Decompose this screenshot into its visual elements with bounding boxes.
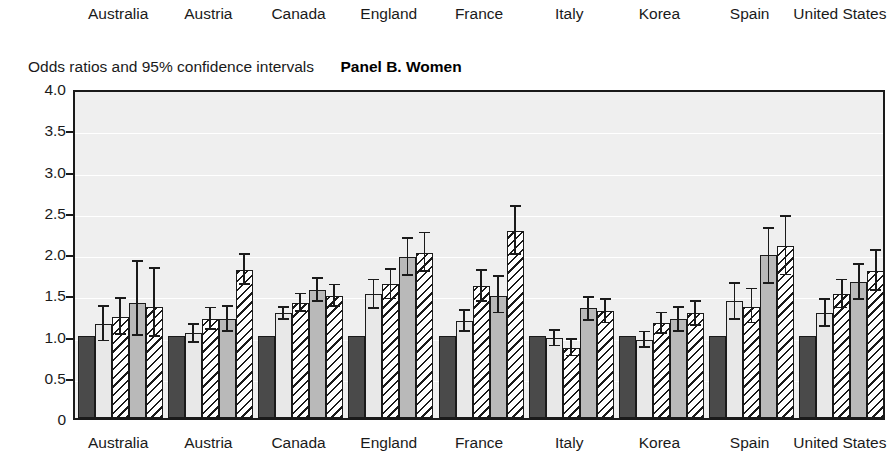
error-bar-cap-upper xyxy=(583,296,594,298)
error-bar-cap-lower xyxy=(402,274,413,276)
error-bar-cap-lower xyxy=(115,333,126,335)
error-bar-cap-upper xyxy=(459,309,470,311)
bar xyxy=(580,308,597,418)
error-bar xyxy=(514,206,516,254)
country-label-korea: Korea xyxy=(639,432,680,454)
country-label-austria: Austria xyxy=(184,432,232,454)
error-bar-cap-lower xyxy=(673,330,684,332)
bar-slot xyxy=(850,92,867,418)
bar-slot xyxy=(473,92,490,418)
bar-slot xyxy=(833,92,850,418)
country-header-label-united-states: United States xyxy=(793,4,886,24)
error-bar-cap-lower xyxy=(836,307,847,309)
error-bar-cap-lower xyxy=(763,282,774,284)
country-label-canada: Canada xyxy=(271,432,325,454)
error-bar-cap-lower xyxy=(600,322,611,324)
error-bar-cap-upper xyxy=(132,260,143,262)
error-bar-cap-lower xyxy=(312,300,323,302)
bar xyxy=(399,257,416,418)
bar-slot xyxy=(365,92,382,418)
bar-group-england xyxy=(348,92,433,418)
error-bar xyxy=(768,228,770,282)
bar xyxy=(636,340,653,418)
bar xyxy=(456,321,473,418)
bar-slot xyxy=(687,92,704,418)
bottom-country-labels: AustraliaAustriaCanadaEnglandFranceItaly… xyxy=(73,432,893,460)
error-bar-cap-lower xyxy=(780,274,791,276)
error-bar-cap-lower xyxy=(132,334,143,336)
error-bar-cap-lower xyxy=(278,318,289,320)
error-bar xyxy=(136,261,138,334)
bar-group-spain xyxy=(709,92,794,418)
bar-slot xyxy=(580,92,597,418)
error-bar-cap-lower xyxy=(295,310,306,312)
error-bar-cap-upper xyxy=(493,275,504,277)
error-bar-cap-lower xyxy=(656,332,667,334)
bar xyxy=(709,336,726,419)
bar-slot xyxy=(292,92,309,418)
bar xyxy=(799,336,816,419)
bar-slot xyxy=(653,92,670,418)
error-bar xyxy=(333,284,335,305)
error-bar-cap-upper xyxy=(639,331,650,333)
error-bar-cap-lower xyxy=(239,283,250,285)
bar xyxy=(563,348,580,418)
bar-group-canada xyxy=(258,92,343,418)
error-bar-cap-lower xyxy=(222,330,233,332)
y-tick-mark xyxy=(66,379,75,381)
error-bar xyxy=(643,331,645,347)
bar xyxy=(439,336,456,419)
error-bar xyxy=(751,289,753,323)
bar xyxy=(546,338,563,418)
country-header-label-england: England xyxy=(360,4,417,24)
error-bar-cap-upper xyxy=(188,323,199,325)
bar-slot xyxy=(146,92,163,418)
error-bar-cap-upper xyxy=(870,249,881,251)
error-bar-cap-lower xyxy=(459,330,470,332)
bar xyxy=(236,270,253,419)
country-label-italy: Italy xyxy=(555,432,583,454)
y-tick-label: 0 xyxy=(20,412,66,428)
error-bar xyxy=(553,330,555,346)
bar xyxy=(185,333,202,418)
error-bar xyxy=(570,339,572,356)
error-bar-cap-upper xyxy=(853,263,864,265)
error-bar-cap-lower xyxy=(746,322,757,324)
country-header-label-france: France xyxy=(455,4,503,24)
country-label-france: France xyxy=(455,432,503,454)
error-bar xyxy=(480,270,482,301)
error-bar-cap-upper xyxy=(780,215,791,217)
error-bar-cap-lower xyxy=(690,324,701,326)
bar-slot xyxy=(185,92,202,418)
bar xyxy=(833,294,850,418)
bar xyxy=(529,336,546,419)
error-bar xyxy=(824,299,826,325)
error-bar xyxy=(209,307,211,328)
bar-slot xyxy=(867,92,884,418)
bar-slot xyxy=(507,92,524,418)
error-bar-cap-lower xyxy=(205,328,216,330)
error-bar-cap-upper xyxy=(600,298,611,300)
bar-slot xyxy=(816,92,833,418)
bar-slot xyxy=(95,92,112,418)
error-bar-cap-upper xyxy=(368,279,379,281)
bar-slot xyxy=(78,92,95,418)
error-bar xyxy=(373,279,375,308)
error-bar xyxy=(407,238,409,275)
error-bar-cap-upper xyxy=(278,306,289,308)
bar-slot xyxy=(456,92,473,418)
error-bar-cap-upper xyxy=(239,253,250,255)
bar-slot xyxy=(490,92,507,418)
y-tick-mark xyxy=(66,173,75,175)
error-bar xyxy=(153,268,155,336)
y-tick-label: 3.0 xyxy=(20,165,66,181)
bar-group-united-states xyxy=(799,92,884,418)
y-tick-label: 3.5 xyxy=(20,123,66,139)
error-bar xyxy=(734,283,736,319)
bar xyxy=(687,313,704,418)
error-bar-cap-lower xyxy=(819,325,830,327)
error-bar xyxy=(660,312,662,333)
bar-slot xyxy=(275,92,292,418)
error-bar-cap-upper xyxy=(115,297,126,299)
bar-slot xyxy=(619,92,636,418)
